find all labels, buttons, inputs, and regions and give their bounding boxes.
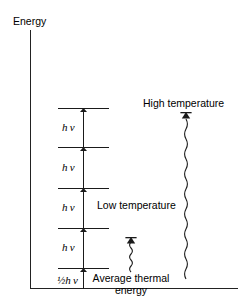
quantum-gap-label-1: h ν: [62, 122, 75, 133]
low-temperature-label: Low temperature: [97, 199, 176, 211]
high-temperature-label: High temperature: [143, 97, 224, 109]
zero-point-energy-label: ½h ν: [57, 275, 78, 286]
quantum-gap-text-4: h ν: [62, 241, 75, 253]
average-thermal-energy-label: Average thermal energy: [88, 272, 174, 296]
energy-axis-line: [30, 30, 31, 289]
quantum-gap-text-2: h ν: [62, 161, 75, 173]
average-thermal-energy-arrow: [122, 234, 140, 274]
quantum-gap-label-3: h ν: [62, 202, 75, 213]
quantum-gap-text-3: h ν: [62, 201, 75, 213]
high-temperature-arrow: [177, 109, 195, 281]
quantum-gap-label-2: h ν: [62, 162, 75, 173]
average-thermal-energy-line-2: energy: [88, 284, 174, 296]
quantum-gap-label-4: h ν: [62, 242, 75, 253]
quantum-gap-text-1: h ν: [62, 121, 75, 133]
energy-axis-label: Energy: [13, 15, 46, 27]
zero-point-energy-text: ½h ν: [57, 274, 78, 286]
ladder-stem-line: [83, 108, 84, 289]
energy-level-diagram: Energy h ν h ν h ν h ν ½h ν Low temperat…: [0, 0, 240, 307]
